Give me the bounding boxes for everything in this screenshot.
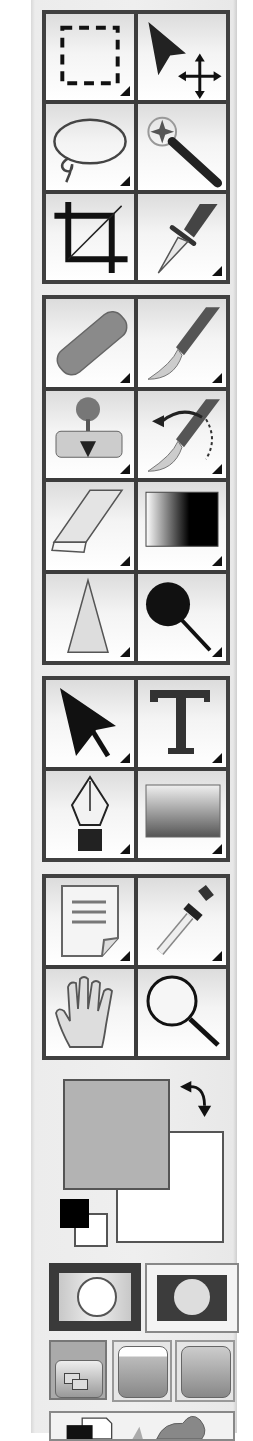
- tool-group-painting: [42, 295, 230, 665]
- move-icon: [138, 14, 226, 100]
- quick-mask-icon: [157, 1275, 227, 1321]
- hand-icon: [46, 969, 134, 1056]
- zoom-tool[interactable]: [138, 969, 226, 1056]
- standard-mode-icon: [59, 1273, 131, 1321]
- swap-arrow-icon[interactable]: [180, 1080, 214, 1120]
- submenu-indicator-icon: [212, 844, 222, 854]
- submenu-indicator-icon: [212, 464, 222, 474]
- blur-tool[interactable]: [46, 574, 134, 662]
- full-screen-menu-icon: [118, 1346, 168, 1398]
- full-screen-icon: [181, 1346, 231, 1398]
- standard-screen-icon: [55, 1360, 103, 1398]
- magic-wand-tool[interactable]: [138, 104, 226, 190]
- magnifier-icon: [138, 969, 226, 1056]
- submenu-indicator-icon: [212, 753, 222, 763]
- rectangle-shape-tool[interactable]: [138, 771, 226, 858]
- full-screen-mode-button[interactable]: [175, 1340, 235, 1402]
- full-screen-menu-mode-button[interactable]: [112, 1340, 172, 1402]
- standard-mode-button[interactable]: [49, 1263, 141, 1331]
- clone-stamp-tool[interactable]: [46, 391, 134, 479]
- tool-group-vector: [42, 676, 230, 862]
- submenu-indicator-icon: [212, 266, 222, 276]
- magic-wand-icon: [138, 104, 226, 190]
- submenu-indicator-icon: [120, 844, 130, 854]
- submenu-indicator-icon: [120, 951, 130, 961]
- submenu-indicator-icon: [120, 86, 130, 96]
- jump-to-button[interactable]: [49, 1411, 235, 1441]
- dodge-tool[interactable]: [138, 574, 226, 662]
- history-brush-tool[interactable]: [138, 391, 226, 479]
- submenu-indicator-icon: [212, 556, 222, 566]
- submenu-indicator-icon: [212, 951, 222, 961]
- slice-tool[interactable]: [138, 194, 226, 280]
- submenu-indicator-icon: [120, 753, 130, 763]
- submenu-indicator-icon: [120, 464, 130, 474]
- jump-to-icon: [51, 1413, 233, 1439]
- foreground-color-swatch[interactable]: [63, 1079, 170, 1190]
- quick-mask-mode-button[interactable]: [145, 1263, 239, 1333]
- tool-group-navigation: [42, 874, 230, 1060]
- type-tool[interactable]: [138, 680, 226, 767]
- standard-screen-mode-button[interactable]: [49, 1340, 107, 1400]
- healing-brush-tool[interactable]: [46, 299, 134, 387]
- submenu-indicator-icon: [120, 556, 130, 566]
- notes-tool[interactable]: [46, 878, 134, 965]
- submenu-indicator-icon: [212, 373, 222, 383]
- submenu-indicator-icon: [120, 176, 130, 186]
- crop-tool[interactable]: [46, 194, 134, 280]
- tool-group-selection: [42, 10, 230, 284]
- lasso-tool[interactable]: [46, 104, 134, 190]
- move-tool[interactable]: [138, 14, 226, 100]
- eyedropper-tool[interactable]: [138, 878, 226, 965]
- eraser-tool[interactable]: [46, 482, 134, 570]
- rectangular-marquee-tool[interactable]: [46, 14, 134, 100]
- default-fg-swatch[interactable]: [60, 1199, 89, 1228]
- crop-icon: [46, 194, 134, 280]
- submenu-indicator-icon: [120, 373, 130, 383]
- submenu-indicator-icon: [120, 647, 130, 657]
- gradient-tool[interactable]: [138, 482, 226, 570]
- pen-tool[interactable]: [46, 771, 134, 858]
- submenu-indicator-icon: [212, 647, 222, 657]
- hand-tool[interactable]: [46, 969, 134, 1056]
- path-selection-tool[interactable]: [46, 680, 134, 767]
- brush-tool[interactable]: [138, 299, 226, 387]
